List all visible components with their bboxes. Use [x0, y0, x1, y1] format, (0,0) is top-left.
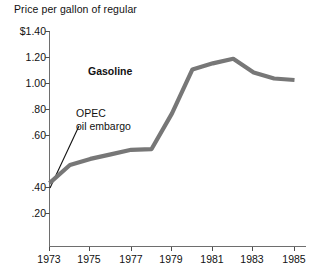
chart-plot-area	[0, 0, 323, 279]
data-line-gasoline	[50, 59, 295, 183]
y-axis-ticks	[45, 32, 50, 214]
x-axis-ticks	[50, 247, 295, 251]
gasoline-price-chart: Price per gallon of regular $1.40 1.20 1…	[0, 0, 323, 279]
